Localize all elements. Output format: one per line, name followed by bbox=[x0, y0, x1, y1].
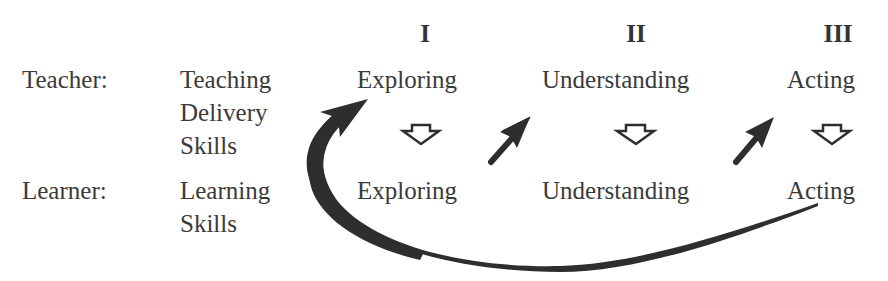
hollow-down-arrow-icon bbox=[617, 125, 654, 144]
hollow-down-arrow-icon bbox=[403, 125, 439, 144]
diagonal-arrow-icon bbox=[491, 117, 530, 162]
hollow-down-arrow-icon bbox=[814, 125, 850, 144]
arrows-layer bbox=[0, 0, 888, 281]
feedback-loop-arrow-icon bbox=[307, 99, 818, 272]
diagonal-arrow-icon bbox=[736, 117, 774, 162]
